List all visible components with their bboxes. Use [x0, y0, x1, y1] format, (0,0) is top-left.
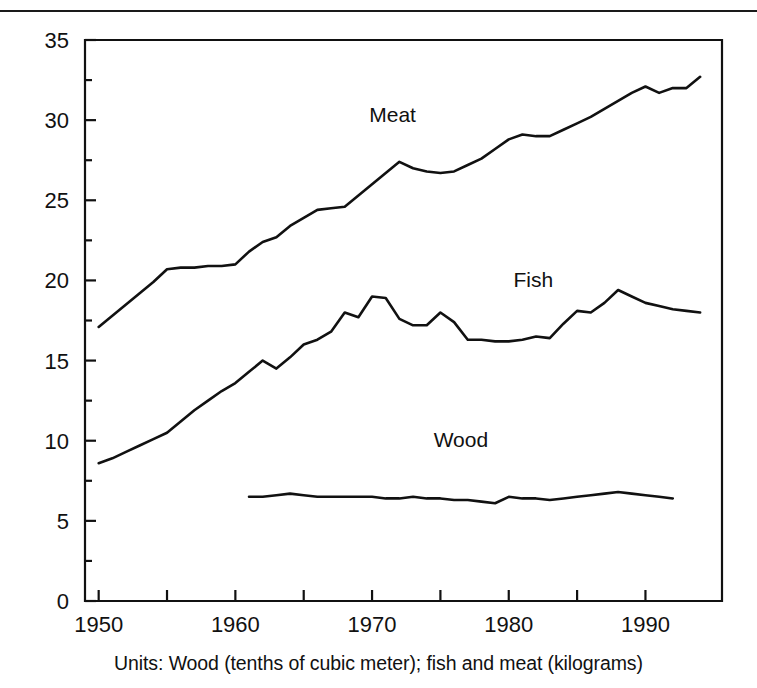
series-inline-labels: MeatFishWood — [369, 103, 553, 451]
series-label-fish: Fish — [514, 268, 554, 291]
line-chart: 05101520253035 19501960197019801990 Meat… — [0, 0, 757, 688]
y-tick-label: 15 — [45, 349, 69, 374]
series-line-wood — [249, 492, 673, 503]
series-label-wood: Wood — [434, 428, 488, 451]
x-tick-label: 1970 — [348, 612, 397, 637]
figure-caption: Units: Wood (tenths of cubic meter); fis… — [0, 652, 757, 675]
axis-ticks — [85, 40, 645, 601]
series-label-meat: Meat — [369, 103, 416, 126]
y-tick-label: 30 — [45, 108, 69, 133]
y-tick-label: 25 — [45, 188, 69, 213]
data-series-lines — [99, 77, 700, 503]
x-axis-tick-labels: 19501960197019801990 — [74, 612, 670, 637]
x-tick-label: 1950 — [74, 612, 123, 637]
y-tick-label: 20 — [45, 268, 69, 293]
figure-container: 05101520253035 19501960197019801990 Meat… — [0, 0, 757, 688]
x-tick-label: 1980 — [484, 612, 533, 637]
x-tick-label: 1960 — [211, 612, 260, 637]
y-tick-label: 5 — [57, 509, 69, 534]
y-axis-tick-labels: 05101520253035 — [45, 28, 69, 614]
x-tick-label: 1990 — [621, 612, 670, 637]
y-tick-label: 35 — [45, 28, 69, 53]
series-line-fish — [99, 290, 700, 463]
y-tick-label: 10 — [45, 429, 69, 454]
y-tick-label: 0 — [57, 589, 69, 614]
